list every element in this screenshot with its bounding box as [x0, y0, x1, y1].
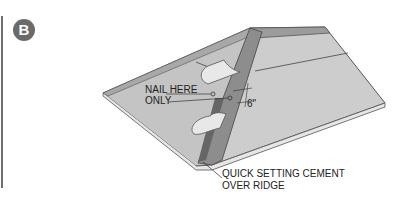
label-over-ridge: OVER RIDGE — [222, 180, 285, 191]
roof-ridge-diagram: NAIL HERE ONLY 6" QUICK SETTING CEMENT O… — [0, 0, 411, 197]
label-dimension: 6" — [247, 98, 257, 109]
label-nail-here: NAIL HERE — [145, 84, 198, 95]
label-cement: QUICK SETTING CEMENT — [222, 168, 345, 179]
label-only: ONLY — [145, 95, 172, 106]
